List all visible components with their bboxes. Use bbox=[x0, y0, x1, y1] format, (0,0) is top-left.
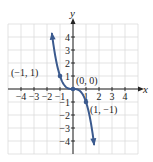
point-label-1-neg1: (1, −1) bbox=[90, 104, 117, 116]
y-tick-label: 2 bbox=[65, 58, 70, 69]
y-tick-label: 3 bbox=[65, 45, 70, 56]
y-axis-label: y bbox=[69, 7, 75, 19]
point-marker bbox=[58, 74, 63, 79]
y-tick-label: −4 bbox=[59, 136, 70, 147]
point-marker bbox=[71, 87, 76, 92]
point-label-neg1-1: (−1, 1) bbox=[11, 67, 38, 79]
y-tick-label: −3 bbox=[59, 123, 70, 134]
y-tick-label: 1 bbox=[65, 71, 70, 82]
x-tick-label: 4 bbox=[123, 91, 128, 102]
point-label-origin: (0, 0) bbox=[76, 75, 98, 87]
point-marker bbox=[84, 100, 89, 105]
x-axis-label: x bbox=[142, 83, 148, 95]
cubic-function-graph: −4−3−2−112344321−1−2−3−4 x y (−1, 1) (0,… bbox=[0, 0, 153, 162]
x-tick-label: 3 bbox=[110, 91, 115, 102]
y-tick-label: −2 bbox=[59, 110, 70, 121]
x-tick-label: −2 bbox=[42, 91, 53, 102]
x-tick-label: 2 bbox=[97, 91, 102, 102]
x-tick-label: −4 bbox=[16, 91, 27, 102]
axes bbox=[8, 18, 144, 154]
y-tick-label: 4 bbox=[65, 32, 70, 43]
x-tick-label: −3 bbox=[29, 91, 40, 102]
y-tick-label: −1 bbox=[59, 97, 70, 108]
